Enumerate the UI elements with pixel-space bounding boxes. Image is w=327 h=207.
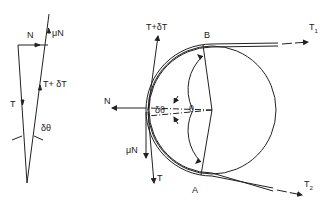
tension-T-line bbox=[18, 45, 27, 183]
T1-arrow bbox=[282, 42, 308, 44]
belt-outer bbox=[146, 43, 278, 188]
arrow-T-plus-dT-icon bbox=[39, 85, 42, 90]
theta-arrowhead-lower-icon bbox=[195, 158, 201, 164]
pulley bbox=[112, 36, 308, 195]
label-T2: T2 bbox=[304, 179, 314, 191]
label-T1: T1 bbox=[309, 22, 319, 34]
label-B: B bbox=[204, 30, 210, 40]
theta-arc-upper bbox=[188, 56, 203, 108]
T-arrow bbox=[148, 112, 154, 183]
radius-to-A bbox=[201, 110, 212, 175]
label-muN: μN bbox=[126, 145, 138, 155]
label-T: T bbox=[10, 99, 16, 109]
radius-to-B bbox=[203, 45, 212, 110]
label-T-plus-dT: T+ δT bbox=[43, 79, 67, 89]
arrow-N-icon bbox=[35, 43, 40, 47]
dtheta-arrow-upper bbox=[174, 96, 178, 103]
dtheta-tick-left bbox=[12, 136, 22, 140]
belt-friction-diagram: N μN T+ δT T δθ T+δT B T1 bbox=[0, 0, 327, 207]
T-plus-dT-arrow bbox=[148, 36, 158, 110]
belt-inner bbox=[149, 46, 278, 191]
label-dtheta: δθ bbox=[155, 105, 165, 115]
label-T-plus-dT: T+δT bbox=[146, 22, 168, 32]
arrow-muN-icon bbox=[48, 28, 51, 33]
label-dtheta: δθ bbox=[41, 123, 51, 133]
label-muN: μN bbox=[52, 28, 64, 38]
label-theta: θ bbox=[189, 104, 194, 114]
theta-arc-lower bbox=[188, 112, 201, 162]
dtheta-tick-right bbox=[34, 136, 43, 140]
label-A: A bbox=[192, 185, 198, 195]
dtheta-arrow-lower bbox=[174, 117, 178, 124]
T2-arrow bbox=[277, 190, 302, 195]
label-N: N bbox=[27, 30, 34, 40]
label-N: N bbox=[104, 96, 111, 106]
theta-arrowhead-upper-icon bbox=[197, 54, 203, 60]
label-T: T bbox=[157, 173, 163, 183]
